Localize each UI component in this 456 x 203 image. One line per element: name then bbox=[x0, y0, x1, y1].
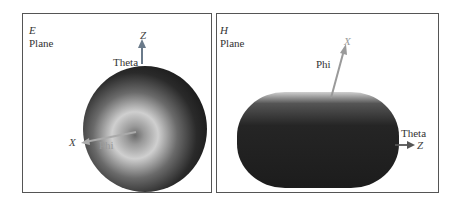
h-plane-pattern bbox=[217, 14, 440, 194]
h-plane-lobe bbox=[237, 92, 399, 188]
z-axis-label: Z bbox=[417, 139, 423, 151]
h-plane-label: Plane bbox=[220, 37, 244, 49]
h-plane-panel: H Plane X Phi Theta Z bbox=[216, 13, 439, 193]
phi-label: Phi bbox=[99, 139, 114, 151]
x-axis-label: X bbox=[69, 136, 76, 148]
theta-label: Theta bbox=[401, 127, 426, 139]
e-plane-lobe bbox=[83, 66, 207, 192]
x-axis-label: X bbox=[344, 35, 351, 47]
e-plane-letter: E bbox=[29, 24, 36, 36]
x-axis-arrow-icon bbox=[331, 50, 344, 98]
e-plane-panel: E Plane Z Theta X Phi bbox=[22, 13, 212, 193]
h-plane-letter: H bbox=[220, 24, 228, 36]
e-plane-label: Plane bbox=[29, 37, 53, 49]
phi-label: Phi bbox=[316, 58, 331, 70]
theta-label: Theta bbox=[113, 56, 138, 68]
z-axis-label: Z bbox=[140, 29, 146, 41]
